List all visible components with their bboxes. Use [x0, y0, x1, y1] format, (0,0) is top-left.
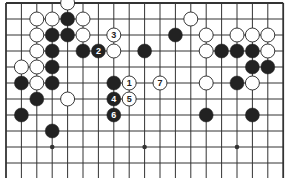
- black-stone: [45, 76, 59, 90]
- white-stone-icon: [30, 12, 44, 26]
- move-number-label: 5: [127, 94, 132, 104]
- black-stone-icon: [230, 76, 244, 90]
- white-stone-icon: [261, 44, 275, 58]
- black-stone-icon: [45, 124, 59, 138]
- white-stone-icon: [107, 44, 121, 58]
- black-stone: [45, 44, 59, 58]
- black-stone: [215, 44, 229, 58]
- black-stone-icon: [45, 76, 59, 90]
- black-stone: [230, 44, 244, 58]
- star-point: [50, 145, 55, 150]
- white-stone: [30, 12, 44, 26]
- black-stone-icon: [30, 92, 44, 106]
- white-stone: [30, 28, 44, 42]
- white-stone-icon: [61, 0, 75, 10]
- black-stone: [168, 28, 182, 42]
- move-number-label: 2: [96, 46, 101, 56]
- black-stone-icon: [245, 108, 259, 122]
- black-stone-icon: [14, 76, 28, 90]
- black-stone-2: 2: [91, 44, 105, 58]
- white-stone: [61, 92, 75, 106]
- white-stone-icon: [245, 76, 259, 90]
- white-stone: [76, 28, 90, 42]
- white-stone: [30, 60, 44, 74]
- black-stone: [45, 124, 59, 138]
- black-stone-icon: [199, 108, 213, 122]
- white-stone: [30, 44, 44, 58]
- white-stone: [14, 60, 28, 74]
- black-stone-icon: [76, 44, 90, 58]
- move-number-label: 3: [111, 30, 116, 40]
- white-stone-icon: [61, 92, 75, 106]
- white-stone: [76, 12, 90, 26]
- black-stone: [61, 12, 75, 26]
- black-stone-icon: [61, 12, 75, 26]
- black-stone: [245, 44, 259, 58]
- white-stone: [230, 28, 244, 42]
- black-stone-icon: [107, 76, 121, 90]
- white-stone-icon: [245, 28, 259, 42]
- black-stone: [14, 108, 28, 122]
- white-stone-icon: [30, 60, 44, 74]
- white-stone: [245, 28, 259, 42]
- white-stone-icon: [30, 44, 44, 58]
- black-stone-icon: [245, 60, 259, 74]
- white-stone: [261, 44, 275, 58]
- black-stone: [245, 108, 259, 122]
- white-stone: [184, 12, 198, 26]
- move-number-label: 1: [127, 78, 132, 88]
- white-stone: [45, 12, 59, 26]
- black-stone: [45, 60, 59, 74]
- white-stone: [199, 28, 213, 42]
- black-stone-icon: [138, 44, 152, 58]
- black-stone-icon: [168, 28, 182, 42]
- black-stone: [61, 28, 75, 42]
- white-stone-icon: [199, 44, 213, 58]
- black-stone: [45, 28, 59, 42]
- black-stone-icon: [14, 108, 28, 122]
- black-stone: [14, 76, 28, 90]
- move-number-label: 4: [111, 94, 116, 104]
- go-board-diagram: 3217456: [0, 0, 287, 188]
- white-stone: [199, 76, 213, 90]
- black-stone: [138, 44, 152, 58]
- white-stone: [261, 28, 275, 42]
- star-point: [235, 145, 240, 150]
- black-stone: [261, 60, 275, 74]
- white-stone-icon: [199, 28, 213, 42]
- black-stone: [245, 60, 259, 74]
- move-number-label: 7: [157, 78, 162, 88]
- black-stone-icon: [45, 28, 59, 42]
- white-stone: [199, 44, 213, 58]
- white-stone-icon: [76, 12, 90, 26]
- white-stone-icon: [45, 12, 59, 26]
- white-stone-icon: [14, 60, 28, 74]
- black-stone-icon: [245, 44, 259, 58]
- black-stone-6: 6: [107, 108, 121, 122]
- black-stone-icon: [45, 44, 59, 58]
- white-stone-icon: [76, 28, 90, 42]
- white-stone: [245, 76, 259, 90]
- black-stone-icon: [45, 60, 59, 74]
- white-stone-icon: [261, 28, 275, 42]
- black-stone-icon: [215, 44, 229, 58]
- white-stone-icon: [230, 28, 244, 42]
- white-stone: [30, 76, 44, 90]
- white-stone-5: 5: [122, 92, 136, 106]
- white-stone-3: 3: [107, 28, 121, 42]
- star-point: [142, 145, 147, 150]
- move-number-label: 6: [111, 110, 116, 120]
- white-stone: [61, 0, 75, 10]
- black-stone-icon: [61, 28, 75, 42]
- white-stone-icon: [199, 76, 213, 90]
- white-stone-icon: [184, 12, 198, 26]
- black-stone: [199, 108, 213, 122]
- black-stone: [76, 44, 90, 58]
- white-stone-icon: [30, 76, 44, 90]
- black-stone: [230, 76, 244, 90]
- white-stone: [107, 44, 121, 58]
- black-stone: [30, 92, 44, 106]
- black-stone-4: 4: [107, 92, 121, 106]
- black-stone: [107, 76, 121, 90]
- white-stone-1: 1: [122, 76, 136, 90]
